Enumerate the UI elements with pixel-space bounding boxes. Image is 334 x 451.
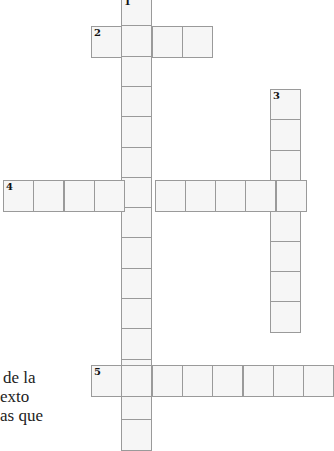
crossword-cell[interactable] [121,328,152,360]
clue-number-1: 1 [124,0,131,7]
clue-number-4: 4 [6,181,13,192]
clue-number-2: 2 [94,27,101,38]
crossword-cell[interactable] [33,180,64,212]
crossword-cell[interactable] [121,365,152,397]
crossword-cell[interactable] [215,180,246,212]
crossword-cell[interactable] [64,180,95,212]
crossword-cell[interactable] [121,147,152,179]
crossword-cell[interactable] [212,365,243,397]
crossword-cell[interactable] [303,365,334,397]
crossword-cell[interactable] [270,271,301,303]
crossword-cell[interactable] [182,365,213,397]
clue-number-5: 5 [94,366,101,377]
crossword-cell[interactable] [152,26,183,58]
crossword-cell[interactable] [155,180,186,212]
crossword-cell[interactable] [121,237,152,269]
crossword-cell[interactable] [121,56,152,88]
crossword-cell[interactable] [243,365,274,397]
clue-number-3: 3 [273,90,280,101]
crossword-cell[interactable]: 1 [121,0,152,27]
crossword-cell[interactable] [182,26,213,58]
crossword-cell[interactable] [270,301,301,333]
clue-line: de la [3,368,36,387]
crossword-cell[interactable] [121,419,152,451]
crossword-cell[interactable] [121,268,152,300]
crossword-cell[interactable] [121,25,152,57]
crossword-cell[interactable]: 5 [91,365,122,397]
crossword-cell[interactable]: 4 [3,180,34,212]
crossword-cell[interactable] [185,180,216,212]
crossword-cell[interactable] [270,150,301,182]
crossword-cell[interactable] [121,86,152,118]
crossword-cell[interactable] [121,298,152,330]
crossword-cell[interactable] [152,365,183,397]
crossword-cell[interactable] [270,119,301,151]
crossword-cell[interactable] [121,207,152,239]
crossword-cell[interactable]: 2 [91,26,122,58]
crossword-cell[interactable] [245,180,276,212]
crossword-cell[interactable] [276,180,307,212]
crossword-cell[interactable] [94,180,125,212]
clue-line: as que [0,406,43,425]
clue-line: exto [0,387,29,406]
crossword-cell[interactable] [270,241,301,273]
crossword-cell[interactable] [270,210,301,242]
crossword-cell[interactable]: 3 [270,89,301,121]
crossword-cell[interactable] [273,365,304,397]
crossword-cell[interactable] [121,116,152,148]
crossword-cell[interactable] [121,177,152,209]
